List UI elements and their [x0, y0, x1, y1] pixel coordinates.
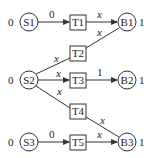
sink-nodes: B1 1 B2 1 B3 1	[118, 13, 145, 151]
node-value: 0	[8, 74, 14, 86]
edge-label: x	[56, 85, 62, 97]
edge-label: x	[96, 8, 102, 20]
edge-label: x	[99, 114, 105, 126]
node-value: 0	[8, 16, 14, 28]
edge-s2-t2	[36, 58, 70, 74]
edge-label: 0	[49, 128, 55, 140]
node-label: S3	[23, 136, 35, 148]
transition-nodes: T1 T2 T3 T4 T5	[70, 15, 86, 150]
edge-label: x	[96, 128, 102, 140]
edge-t2-b1	[86, 28, 119, 48]
node-value: 1	[139, 136, 145, 148]
node-label: B1	[121, 16, 134, 28]
diagram-canvas: 0 x x x x 1 x x 0 x 0 S1 0 S2 0 S3 T1 T2…	[0, 0, 148, 158]
node-label: S2	[23, 74, 35, 86]
edge-label: x	[53, 52, 59, 64]
source-nodes: 0 S1 0 S2 0 S3	[8, 13, 38, 151]
node-value: 1	[139, 16, 145, 28]
node-label: T5	[72, 136, 85, 148]
edge-label: x	[96, 26, 102, 38]
edge-s2-t4	[36, 86, 70, 108]
node-label: T2	[72, 47, 84, 59]
node-label: B2	[121, 74, 134, 86]
node-value: 1	[139, 74, 145, 86]
node-label: T1	[72, 16, 84, 28]
node-label: S1	[23, 16, 35, 28]
node-value: 0	[8, 136, 14, 148]
edge-label: 1	[97, 66, 103, 78]
edge-label: x	[55, 67, 61, 79]
node-label: B3	[121, 136, 134, 148]
node-label: T3	[72, 74, 85, 86]
edge-label: 0	[49, 8, 55, 20]
node-label: T4	[72, 105, 85, 117]
